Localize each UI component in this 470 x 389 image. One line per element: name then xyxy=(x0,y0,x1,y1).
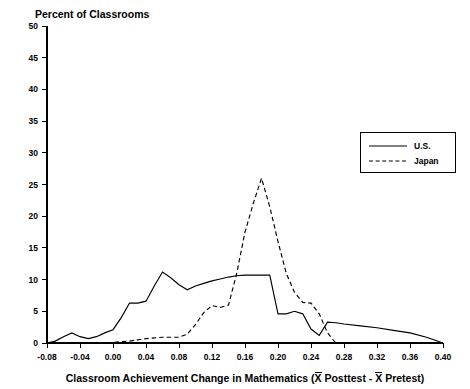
legend-box xyxy=(360,132,455,172)
data-series-group xyxy=(47,178,443,343)
x-tick-label: 0.12 xyxy=(204,352,221,362)
y-axis-ticks: 05101520253035404550 xyxy=(29,21,47,348)
x-tick-label: -0.08 xyxy=(37,352,57,362)
x-tick-label: 0.00 xyxy=(105,352,122,362)
series-line-u-s xyxy=(47,272,443,343)
y-tick-label: 5 xyxy=(33,306,38,316)
x-tick-label: 0.20 xyxy=(270,352,287,362)
svg-text:Classroom Achievement Change i: Classroom Achievement Change in Mathemat… xyxy=(66,372,425,384)
x-axis-ticks: -0.08-0.040.000.040.080.120.160.200.240.… xyxy=(37,343,451,362)
x-axis-title-xbar-1: X xyxy=(315,372,322,384)
x-axis-title-xbar-2: X xyxy=(375,372,382,384)
chart-legend: U.S. Japan xyxy=(360,132,455,172)
x-tick-label: 0.16 xyxy=(237,352,254,362)
x-tick-label: 0.04 xyxy=(138,352,155,362)
x-axis-title-part-3: Pretest) xyxy=(382,372,424,384)
legend-label-us: U.S. xyxy=(414,141,431,151)
y-tick-label: 0 xyxy=(33,338,38,348)
x-tick-label: 0.40 xyxy=(435,352,452,362)
chart-title: Percent of Classrooms xyxy=(35,8,150,20)
legend-label-japan: Japan xyxy=(414,156,439,166)
x-tick-label: -0.04 xyxy=(70,352,90,362)
x-axis-title: Classroom Achievement Change in Mathemat… xyxy=(66,372,425,384)
y-tick-label: 35 xyxy=(29,116,39,126)
y-tick-label: 10 xyxy=(29,275,39,285)
chart-figure: Percent of Classrooms 051015202530354045… xyxy=(0,0,470,389)
y-tick-label: 50 xyxy=(29,21,39,31)
x-tick-label: 0.28 xyxy=(336,352,353,362)
y-tick-label: 40 xyxy=(29,84,39,94)
y-tick-label: 15 xyxy=(29,243,39,253)
x-axis-title-part-1: Classroom Achievement Change in Mathemat… xyxy=(66,372,315,384)
y-tick-label: 20 xyxy=(29,211,39,221)
x-tick-label: 0.24 xyxy=(303,352,320,362)
line-chart-canvas: Percent of Classrooms 051015202530354045… xyxy=(0,0,470,389)
series-line-japan xyxy=(47,178,443,343)
y-tick-label: 25 xyxy=(29,180,39,190)
y-tick-label: 45 xyxy=(29,53,39,63)
y-tick-label: 30 xyxy=(29,148,39,158)
x-tick-label: 0.32 xyxy=(369,352,386,362)
x-tick-label: 0.36 xyxy=(402,352,419,362)
x-tick-label: 0.08 xyxy=(171,352,188,362)
x-axis-title-part-2: Posttest - xyxy=(322,372,376,384)
